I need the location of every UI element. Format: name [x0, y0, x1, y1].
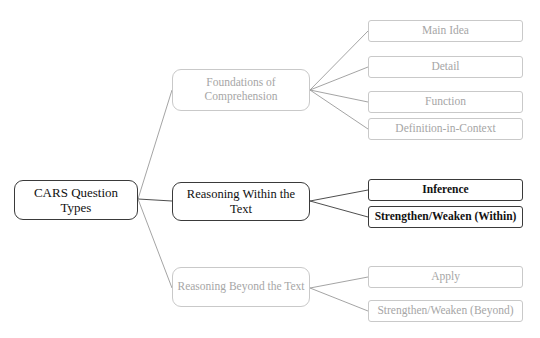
- diagram-canvas: CARS Question Types Foundations of Compr…: [0, 0, 540, 338]
- node-leaf-strengthen-weaken-within[interactable]: Strengthen/Weaken (Within): [368, 206, 523, 228]
- edge-within-to-strengthen: [310, 201, 368, 217]
- node-leaf-function[interactable]: Function: [368, 91, 523, 113]
- node-leaf-apply[interactable]: Apply: [368, 266, 523, 288]
- node-leaf-definition-in-context[interactable]: Definition-in-Context: [368, 118, 523, 140]
- edge-beyond-to-strengthen: [310, 288, 368, 311]
- node-reasoning-within-the-text[interactable]: Reasoning Within the Text: [172, 182, 310, 221]
- edge-root-to-foundations: [138, 90, 172, 199]
- node-leaf-detail[interactable]: Detail: [368, 56, 523, 78]
- edge-foundations-to-function: [310, 90, 368, 102]
- edge-foundations-to-detail: [310, 67, 368, 90]
- node-root-cars-question-types[interactable]: CARS Question Types: [14, 180, 138, 220]
- edge-within-to-inference: [310, 190, 368, 201]
- node-foundations-of-comprehension[interactable]: Foundations of Comprehension: [172, 69, 310, 111]
- node-leaf-strengthen-weaken-beyond[interactable]: Strengthen/Weaken (Beyond): [368, 300, 523, 322]
- edge-root-to-within: [138, 199, 172, 201]
- node-reasoning-beyond-the-text[interactable]: Reasoning Beyond the Text: [172, 267, 310, 307]
- edge-beyond-to-apply: [310, 277, 368, 288]
- node-leaf-inference[interactable]: Inference: [368, 179, 523, 201]
- edge-root-to-beyond: [138, 199, 172, 288]
- node-leaf-main-idea[interactable]: Main Idea: [368, 20, 523, 42]
- edge-foundations-to-definition: [310, 90, 368, 129]
- edge-foundations-to-main-idea: [310, 31, 368, 90]
